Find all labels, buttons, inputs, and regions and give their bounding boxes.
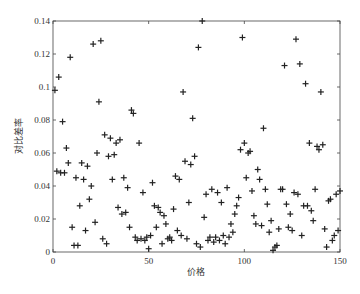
y-tick-label: 0.12 xyxy=(34,49,50,59)
x-tick-label: 0 xyxy=(51,256,56,266)
y-tick-label: 0 xyxy=(46,247,51,257)
x-tick-label: 150 xyxy=(333,256,347,266)
y-tick-label: 0.14 xyxy=(34,16,50,26)
scatter-chart: 00.020.040.060.080.10.120.14 050100150 价… xyxy=(0,0,360,294)
plot-area xyxy=(53,21,340,252)
y-tick-label: 0.02 xyxy=(34,214,50,224)
y-tick-label: 0.08 xyxy=(34,115,50,125)
y-tick-label: 0.06 xyxy=(34,148,50,158)
x-axis-label: 价格 xyxy=(187,266,205,277)
x-tick-label: 50 xyxy=(144,256,154,266)
y-axis-label: 对比差率 xyxy=(13,118,24,154)
plot-frame xyxy=(53,21,340,252)
x-tick-label: 100 xyxy=(238,256,252,266)
y-tick-label: 0.04 xyxy=(34,181,50,191)
y-tick-label: 0.1 xyxy=(39,82,50,92)
